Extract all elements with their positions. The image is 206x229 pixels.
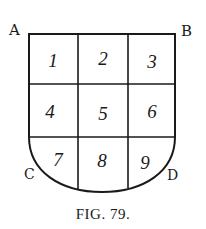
cell-2: 2 (98, 48, 108, 69)
cell-9: 9 (140, 152, 150, 173)
cell-3: 3 (146, 51, 157, 72)
cell-1: 1 (48, 50, 58, 71)
cell-5: 5 (98, 103, 108, 124)
figure-caption: FIG. 79. (76, 206, 130, 222)
cell-7: 7 (53, 149, 64, 170)
corner-label-c: C (24, 166, 35, 182)
corner-label-a: A (8, 21, 20, 39)
cell-4: 4 (45, 101, 55, 122)
cell-6: 6 (147, 101, 157, 122)
corner-label-d: D (167, 167, 178, 183)
cell-8: 8 (97, 150, 107, 171)
shield-diagram: A B C D 1 2 3 4 5 6 7 8 9 FIG. 79. (0, 0, 206, 229)
corner-label-b: B (181, 22, 192, 40)
